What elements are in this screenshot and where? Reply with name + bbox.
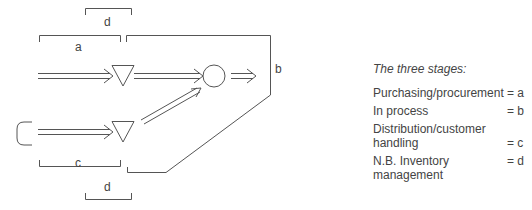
legend-label: Purchasing/procurement	[373, 86, 507, 100]
legend-title: The three stages:	[373, 62, 532, 76]
legend-value: = d	[507, 154, 532, 182]
top-d-label: d	[104, 16, 111, 28]
legend-label: Distribution/customer handling	[373, 122, 507, 150]
legend-label: N.B. Inventory management	[373, 154, 507, 182]
process-circle	[203, 65, 225, 87]
legend-label: In process	[373, 104, 507, 118]
b-label: b	[275, 63, 282, 75]
arrow-triangle-to-circle	[134, 69, 203, 83]
legend-value: = b	[507, 104, 532, 118]
input-arrow-top	[38, 69, 113, 83]
input-arrow-bottom	[38, 125, 113, 139]
stages-legend: The three stages: Purchasing/procurement…	[373, 62, 532, 186]
bottom-d-label: d	[104, 181, 111, 193]
stages-diagram	[0, 0, 330, 210]
a-label: a	[75, 41, 82, 53]
legend-row: In process = b	[373, 104, 532, 118]
inventory-triangle-bottom	[112, 122, 134, 143]
legend-value: = c	[507, 136, 532, 150]
source-bracket	[17, 122, 32, 145]
b-bracket	[127, 36, 271, 173]
legend-row: Purchasing/procurement = a	[373, 86, 532, 100]
c-label: c	[75, 157, 81, 169]
legend-value: = a	[507, 86, 532, 100]
legend-row: Distribution/customer handling = c	[373, 122, 532, 150]
legend-row: N.B. Inventory management = d	[373, 154, 532, 182]
arrow-bottom-to-circle	[141, 88, 201, 124]
inventory-triangle-top	[112, 66, 134, 87]
output-arrow	[231, 69, 256, 83]
